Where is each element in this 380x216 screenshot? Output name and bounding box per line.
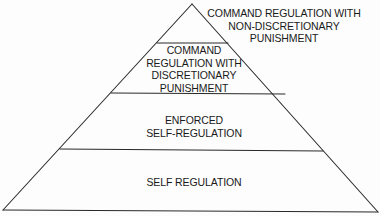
label-line: SELF-REGULATION [132,127,256,140]
label-line: DISCRETIONARY [132,69,256,82]
label-line: PUNISHMENT [205,32,363,45]
pyramid-diagram: COMMAND REGULATION WITH NON-DISCRETIONAR… [0,0,380,216]
divider-tier3-tier4 [60,149,323,151]
label-line: SELF REGULATION [122,176,266,189]
tier3-label: ENFORCED SELF-REGULATION [132,114,256,139]
label-line: PUNISHMENT [132,82,256,95]
label-line: NON-DISCRETIONARY [205,20,363,33]
label-line: COMMAND REGULATION WITH [205,7,363,20]
tier2-label: COMMAND REGULATION WITH DISCRETIONARY PU… [132,44,256,94]
label-line: ENFORCED [132,114,256,127]
pyramid-base [3,210,378,212]
tier4-label: SELF REGULATION [122,176,266,189]
label-line: REGULATION WITH [132,57,256,70]
apex-tier-label: COMMAND REGULATION WITH NON-DISCRETIONAR… [205,7,363,45]
label-line: COMMAND [132,44,256,57]
